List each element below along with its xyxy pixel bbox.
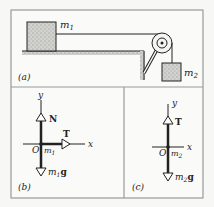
svg-text:y: y [37, 90, 44, 100]
origin-c [166, 145, 170, 149]
panel-b-label: (b) [18, 182, 31, 192]
panel-a-label: (a) [18, 72, 31, 82]
svg-text:x: x [88, 139, 93, 149]
physics-diagram: m1 m2 (a) y x N T m1g O m1 (b) [0, 0, 214, 207]
panel-c-label: (c) [132, 182, 145, 192]
label-n: N [49, 114, 57, 124]
svg-text:y: y [171, 98, 178, 108]
svg-text:O: O [159, 148, 167, 158]
svg-text:x: x [187, 142, 192, 152]
label-t-b: T [63, 129, 70, 139]
origin-b [39, 142, 43, 146]
block-m1 [27, 22, 56, 51]
svg-text:O: O [32, 145, 40, 155]
block-m2 [162, 63, 181, 81]
label-t-c: T [175, 117, 182, 127]
table-surface [22, 51, 144, 55]
